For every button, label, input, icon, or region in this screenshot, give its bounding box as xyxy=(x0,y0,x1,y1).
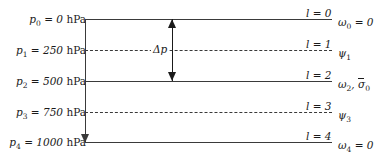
level-line-2 xyxy=(85,81,332,82)
level-number-4: l = 4 xyxy=(306,131,332,142)
pressure-label-text-3: p3 = 750 hPa xyxy=(16,106,86,118)
pressure-label-text-4: p4 = 1000 hPa xyxy=(9,136,86,148)
delta-p-label: Δp xyxy=(151,44,169,55)
pressure-label-text-0: p0 = 0 hPa xyxy=(29,13,86,25)
variable-label-4: ω4 = 0 xyxy=(338,140,374,154)
pressure-label-level-3: p3 = 750 hPa xyxy=(16,107,86,121)
level-number-3: l = 3 xyxy=(306,101,332,112)
level-number-2: l = 2 xyxy=(306,70,332,81)
level-line-1 xyxy=(85,50,332,51)
pressure-axis-line xyxy=(85,19,86,142)
level-number-0: l = 0 xyxy=(306,8,332,19)
arrow-up-icon xyxy=(168,19,176,28)
pressure-label-level-0: p0 = 0 hPa xyxy=(29,14,86,28)
pressure-axis-arrow-icon xyxy=(81,134,89,143)
pressure-label-level-2: p2 = 500 hPa xyxy=(16,76,86,90)
pressure-label-text-1: p1 = 250 hPa xyxy=(16,44,86,56)
pressure-label-text-2: p2 = 500 hPa xyxy=(16,75,86,87)
level-line-0 xyxy=(85,19,332,20)
variable-label-3: ψ3 xyxy=(338,110,351,124)
variable-label-0: ω0 = 0 xyxy=(338,17,374,31)
level-number-1: l = 1 xyxy=(306,39,332,50)
variable-label-1: ψ1 xyxy=(338,48,351,62)
variable-label-2: ω2, σ0 xyxy=(338,79,370,93)
level-line-4 xyxy=(85,142,332,143)
arrow-down-icon xyxy=(168,72,176,81)
pressure-label-level-1: p1 = 250 hPa xyxy=(16,45,86,59)
pressure-label-level-4: p4 = 1000 hPa xyxy=(9,137,86,151)
pressure-level-diagram: p0 = 0 hPa p1 = 250 hPa p2 = 500 hPa p3 … xyxy=(0,0,387,160)
level-line-3 xyxy=(85,112,332,113)
